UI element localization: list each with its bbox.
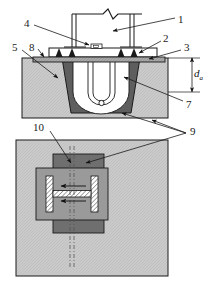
callout-8: 8 — [29, 42, 35, 53]
dimension-subscript: a — [200, 74, 204, 82]
callout-10: 10 — [33, 122, 44, 133]
plan-view — [16, 113, 186, 276]
callout-7: 7 — [186, 99, 192, 110]
callout-5: 5 — [12, 42, 18, 53]
u-tube-cavity — [73, 58, 129, 114]
callout-1: 1 — [178, 14, 184, 25]
bearing-plate — [33, 44, 165, 62]
dimension-label-da: da — [194, 68, 203, 82]
girder — [64, 9, 142, 47]
callout-3: 3 — [184, 42, 190, 53]
callout-4: 4 — [24, 18, 30, 29]
callout-9: 9 — [190, 126, 196, 137]
figure-canvas: 1 2 3 4 5 7 8 9 10 da — [0, 0, 215, 289]
elevation-view — [22, 9, 200, 118]
callout-2: 2 — [163, 33, 169, 44]
